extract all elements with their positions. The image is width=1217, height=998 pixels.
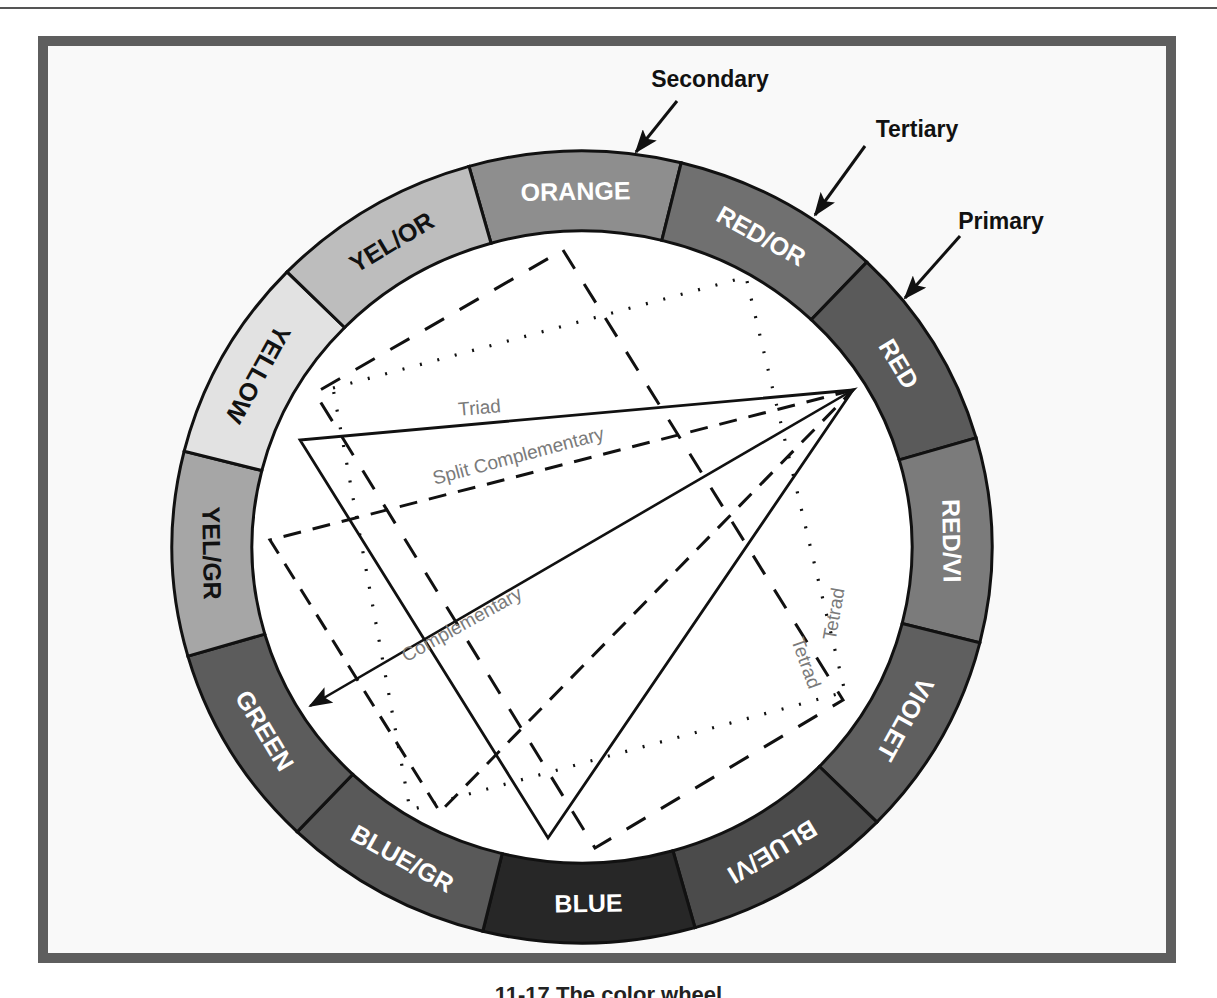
segment-label-yel-gr: YEL/GR — [197, 506, 227, 600]
segment-label-red-vi: RED/VI — [937, 499, 966, 583]
segment-label-orange: ORANGE — [520, 176, 630, 206]
callout-primary-label: Primary — [958, 208, 1044, 234]
callout-primary-arrow-icon — [905, 236, 960, 298]
figure-caption: 11-17 The color wheel — [0, 984, 1217, 998]
callout-tertiary-arrow-icon — [815, 146, 865, 215]
color-wheel-diagram: ORANGERED/ORREDRED/VIVIOLETBLUE/VIBLUEBL… — [0, 0, 1217, 998]
callout-secondary-label: Secondary — [651, 66, 769, 92]
triad-label: Triad — [457, 395, 501, 420]
segment-label-blue: BLUE — [554, 888, 623, 917]
callout-secondary-arrow-icon — [636, 101, 677, 152]
callout-tertiary-label: Tertiary — [876, 116, 959, 142]
